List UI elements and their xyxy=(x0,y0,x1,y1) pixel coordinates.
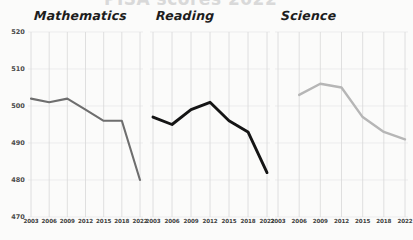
y-tick-label: 500 xyxy=(11,102,25,110)
x-tick-label: 2018 xyxy=(376,218,391,224)
panel-title: Mathematics xyxy=(34,8,128,23)
plot-area xyxy=(28,32,143,217)
y-axis: 520510500490480470 xyxy=(0,0,28,240)
x-tick-label: 2022 xyxy=(397,218,412,224)
x-tick-label: 2003 xyxy=(270,218,285,224)
x-tick-label: 2018 xyxy=(114,218,129,224)
x-tick-label: 2018 xyxy=(240,218,255,224)
x-tick-label: 2006 xyxy=(42,218,57,224)
x-tick-label: 2006 xyxy=(164,218,179,224)
x-axis-labels: 2003200620092012201520182022 xyxy=(275,218,408,232)
y-tick-label: 510 xyxy=(11,65,25,73)
data-line-science xyxy=(299,84,405,140)
y-tick-label: 490 xyxy=(11,139,25,147)
x-axis-labels: 2003200620092012201520182022 xyxy=(150,218,270,232)
x-tick-label: 2006 xyxy=(292,218,307,224)
x-tick-label: 2012 xyxy=(334,218,349,224)
panel-title: Science xyxy=(281,8,337,23)
x-tick-label: 2012 xyxy=(78,218,93,224)
x-tick-label: 2003 xyxy=(23,218,38,224)
x-tick-label: 2009 xyxy=(183,218,198,224)
x-tick-label: 2003 xyxy=(145,218,160,224)
panel-reading: Reading2003200620092012201520182022 xyxy=(150,0,270,240)
x-tick-label: 2015 xyxy=(221,218,236,224)
panel-mathematics: Mathematics2003200620092012201520182022 xyxy=(28,0,143,240)
plot-area xyxy=(150,32,270,217)
plot-area xyxy=(275,32,408,217)
x-tick-label: 2015 xyxy=(355,218,370,224)
x-tick-label: 2015 xyxy=(96,218,111,224)
panel-title: Reading xyxy=(156,8,215,23)
x-tick-label: 2009 xyxy=(313,218,328,224)
x-tick-label: 2012 xyxy=(202,218,217,224)
panel-science: Science2003200620092012201520182022 xyxy=(275,0,408,240)
y-tick-label: 480 xyxy=(11,176,25,184)
x-axis-labels: 2003200620092012201520182022 xyxy=(28,218,143,232)
y-tick-label: 520 xyxy=(11,28,25,36)
x-tick-label: 2009 xyxy=(60,218,75,224)
chart-figure: 520510500490480470 Mathematics2003200620… xyxy=(0,0,413,240)
